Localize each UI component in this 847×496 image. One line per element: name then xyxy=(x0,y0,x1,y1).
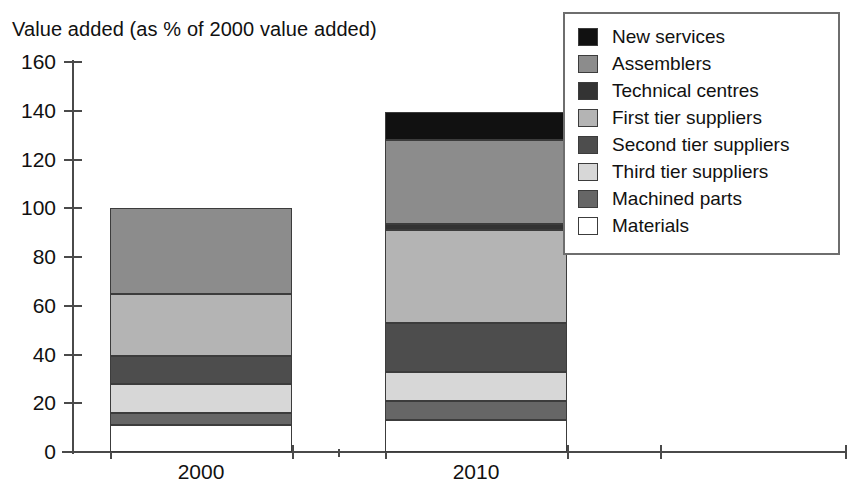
legend-item-label: Second tier suppliers xyxy=(612,135,789,154)
y-axis-tick xyxy=(64,305,82,307)
legend-color-swatch xyxy=(578,217,598,235)
bar-segment[interactable] xyxy=(385,112,567,140)
bar-segment[interactable] xyxy=(385,224,567,230)
y-axis-tick-label: 120 xyxy=(0,149,56,170)
legend-color-swatch xyxy=(578,82,598,100)
y-axis-tick xyxy=(64,207,82,209)
y-axis-tick-label: 0 xyxy=(0,441,56,462)
legend-item[interactable]: Machined parts xyxy=(578,185,789,212)
legend-list: New servicesAssemblersTechnical centresF… xyxy=(578,23,789,239)
bar-segment[interactable] xyxy=(385,230,567,323)
legend-color-swatch xyxy=(578,136,598,154)
x-axis-label: 2000 xyxy=(141,460,261,484)
legend-color-swatch xyxy=(578,28,598,46)
legend: New servicesAssemblersTechnical centresF… xyxy=(563,12,840,255)
stacked-bar[interactable] xyxy=(385,112,567,452)
bar-segment[interactable] xyxy=(385,140,567,224)
bar-segment[interactable] xyxy=(110,356,292,384)
y-axis-tick-label: 80 xyxy=(0,246,56,267)
y-axis-tick xyxy=(64,61,82,63)
y-axis-tick-label: 140 xyxy=(0,100,56,121)
legend-item-label: New services xyxy=(612,27,725,46)
bar-segment[interactable] xyxy=(385,420,567,452)
legend-item[interactable]: Technical centres xyxy=(578,77,789,104)
legend-item[interactable]: New services xyxy=(578,23,789,50)
y-axis-tick-label: 60 xyxy=(0,295,56,316)
bar-segment[interactable] xyxy=(385,401,567,421)
stacked-bar[interactable] xyxy=(110,208,292,452)
bar-segment[interactable] xyxy=(110,425,292,452)
y-axis-tick xyxy=(64,451,82,453)
y-axis-tick-label: 100 xyxy=(0,197,56,218)
legend-item-label: Materials xyxy=(612,216,689,235)
x-axis-tick xyxy=(660,445,662,459)
legend-item-label: Assemblers xyxy=(612,54,711,73)
y-axis-tick-label: 160 xyxy=(0,51,56,72)
legend-item[interactable]: Third tier suppliers xyxy=(578,158,789,185)
legend-item[interactable]: Assemblers xyxy=(578,50,789,77)
y-axis-tick xyxy=(64,159,82,161)
legend-item[interactable]: Materials xyxy=(578,212,789,239)
bar-segment[interactable] xyxy=(110,384,292,413)
legend-item[interactable]: Second tier suppliers xyxy=(578,131,789,158)
y-axis-tick xyxy=(64,354,82,356)
legend-item-label: Technical centres xyxy=(612,81,759,100)
x-axis-tick xyxy=(567,445,569,459)
bar-segment[interactable] xyxy=(110,294,292,356)
legend-color-swatch xyxy=(578,190,598,208)
legend-color-swatch xyxy=(578,55,598,73)
legend-color-swatch xyxy=(578,163,598,181)
x-axis-label: 2010 xyxy=(416,460,536,484)
bar-segment[interactable] xyxy=(385,323,567,372)
y-axis-tick-label: 40 xyxy=(0,344,56,365)
bar-segment[interactable] xyxy=(110,413,292,425)
bar-segment[interactable] xyxy=(110,208,292,293)
y-axis-tick xyxy=(64,110,82,112)
chart-root: Value added (as % of 2000 value added) 0… xyxy=(0,0,847,496)
y-axis-tick xyxy=(64,402,82,404)
y-axis-tick xyxy=(64,256,82,258)
legend-item-label: First tier suppliers xyxy=(612,108,762,127)
y-axis-tick-label: 20 xyxy=(0,392,56,413)
bar-segment[interactable] xyxy=(385,372,567,401)
x-axis-minor-tick xyxy=(338,449,340,457)
x-axis-tick xyxy=(292,445,294,459)
legend-color-swatch xyxy=(578,109,598,127)
legend-item[interactable]: First tier suppliers xyxy=(578,104,789,131)
legend-item-label: Third tier suppliers xyxy=(612,162,768,181)
chart-title: Value added (as % of 2000 value added) xyxy=(12,18,377,40)
legend-item-label: Machined parts xyxy=(612,189,742,208)
